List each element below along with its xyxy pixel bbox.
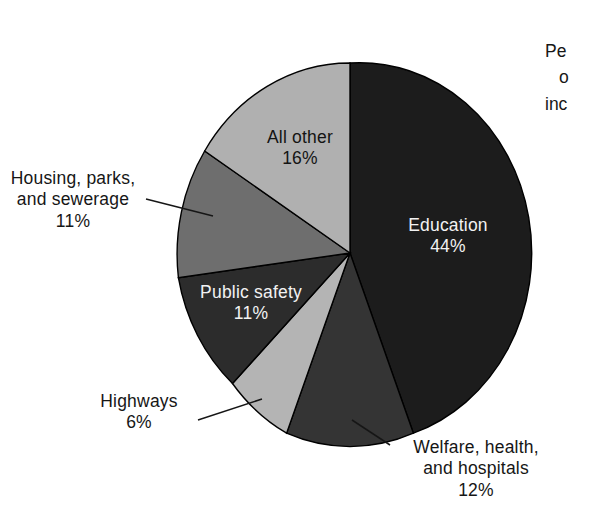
slice-label-all-other-name: All other: [232, 127, 368, 148]
slice-label-public-safety: Public safety 11%: [176, 282, 326, 325]
slice-label-housing-line2: and sewerage: [0, 189, 148, 210]
slice-label-education: Education 44%: [378, 215, 518, 258]
slice-label-highways-value: 6%: [84, 412, 194, 433]
slice-label-public-safety-name: Public safety: [176, 282, 326, 303]
chart-caption-line2: o: [545, 64, 592, 90]
slice-label-welfare-value: 12%: [396, 480, 556, 501]
chart-caption-line1: Pe: [545, 38, 592, 64]
slice-label-welfare-health-hospitals: Welfare, health, and hospitals 12%: [396, 437, 556, 501]
slice-label-highways-name: Highways: [84, 391, 194, 412]
chart-caption: Pe o inc: [545, 38, 592, 117]
slice-label-public-safety-value: 11%: [176, 303, 326, 324]
slice-label-housing-value: 11%: [0, 211, 148, 232]
slice-label-education-name: Education: [378, 215, 518, 236]
pie-chart-figure: Education 44% All other 16% Public safet…: [0, 0, 592, 528]
slice-label-all-other-value: 16%: [232, 148, 368, 169]
slice-label-housing-line1: Housing, parks,: [0, 168, 148, 189]
slice-label-welfare-line2: and hospitals: [396, 458, 556, 479]
slice-label-all-other: All other 16%: [232, 127, 368, 170]
chart-caption-line3: inc: [545, 91, 592, 117]
slice-label-housing-parks-sewerage: Housing, parks, and sewerage 11%: [0, 168, 148, 232]
slice-label-education-value: 44%: [378, 236, 518, 257]
slice-label-welfare-line1: Welfare, health,: [396, 437, 556, 458]
slice-label-highways: Highways 6%: [84, 391, 194, 434]
leader-line-highways: [198, 399, 262, 420]
